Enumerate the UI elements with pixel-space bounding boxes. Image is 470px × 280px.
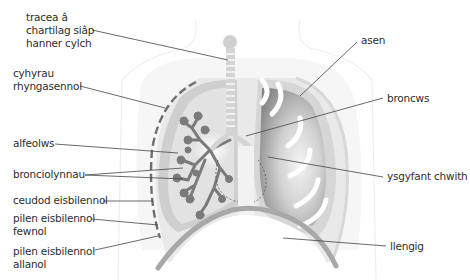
label-line: allanol	[13, 258, 95, 271]
label-alveoli: alfeolws	[13, 137, 54, 150]
label-trachea: tracea â chartilag siâp hanner cylch	[26, 11, 94, 50]
label-ribs: asen	[361, 34, 385, 47]
label-line: fewnol	[13, 225, 95, 238]
label-line: ysgyfant chwith	[387, 170, 468, 183]
label-line: alfeolws	[13, 137, 54, 150]
label-line: llengig	[390, 240, 424, 253]
label-line: pilen eisbilennol	[13, 245, 95, 258]
label-line: cyhyrau	[13, 67, 82, 80]
label-diaphragm: llengig	[390, 240, 424, 253]
label-line: rhyngasennol	[13, 80, 82, 93]
label-pleural-cavity: ceudod eisbilennol	[13, 194, 108, 207]
label-line: tracea â	[26, 11, 94, 24]
label-bronchus: broncws	[387, 92, 429, 105]
label-intercostal-muscles: cyhyrau rhyngasennol	[13, 67, 82, 93]
label-line: asen	[361, 34, 385, 47]
label-inner-pleural-membrane: pilen eisbilennol fewnol	[13, 212, 95, 238]
label-outer-pleural-membrane: pilen eisbilennol allanol	[13, 245, 95, 271]
label-line: ceudod eisbilennol	[13, 194, 108, 207]
label-line: hanner cylch	[26, 37, 94, 50]
label-line: pilen eisbilennol	[13, 212, 95, 225]
label-bronchioles: bronciolynnau	[13, 168, 85, 181]
label-left-lung: ysgyfant chwith	[387, 170, 468, 183]
label-line: bronciolynnau	[13, 168, 85, 181]
label-line: chartilag siâp	[26, 24, 94, 37]
label-line: broncws	[387, 92, 429, 105]
